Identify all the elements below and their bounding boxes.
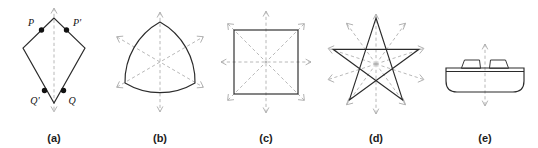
panel-a: P P' Q' Q (a)	[0, 0, 108, 148]
panel-d: (d)	[320, 0, 432, 148]
vertex-dot-Q-prime	[42, 88, 47, 93]
vertex-dot-P-prime	[64, 27, 69, 32]
label-Q: Q	[68, 95, 76, 106]
panel-caption-e: (e)	[432, 132, 538, 144]
square-figure	[212, 0, 320, 148]
mirror-line-vertical	[51, 8, 57, 112]
mirror-line-vertical	[482, 44, 487, 106]
deckhouse-left	[462, 60, 481, 68]
figure-plate: P P' Q' Q (a)	[0, 0, 538, 148]
label-P: P	[27, 17, 34, 28]
vertex-dot-Q	[61, 88, 66, 93]
panel-b: (b)	[108, 0, 212, 148]
kite-figure: P P' Q' Q	[0, 0, 108, 148]
label-P-prime: P'	[72, 17, 82, 28]
panel-caption-a: (a)	[0, 132, 108, 144]
mirror-line-vertical	[157, 12, 162, 112]
deckhouse-right	[490, 60, 509, 68]
vertex-dot-P	[39, 27, 44, 32]
boat-hull-figure	[432, 0, 538, 148]
panel-caption-c: (c)	[212, 132, 320, 144]
panel-c: (c)	[212, 0, 320, 148]
label-Q-prime: Q'	[30, 95, 40, 106]
panel-caption-d: (d)	[320, 132, 432, 144]
panel-e: (e)	[432, 0, 538, 148]
panel-caption-b: (b)	[108, 132, 212, 144]
pentagram-figure	[320, 0, 432, 148]
reuleaux-triangle-figure	[108, 0, 212, 148]
